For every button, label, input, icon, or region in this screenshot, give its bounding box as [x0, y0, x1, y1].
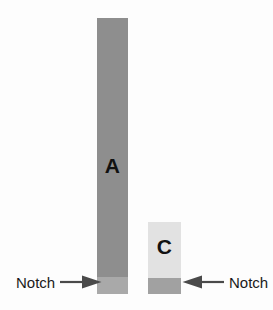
- callout-right-label: Notch: [229, 275, 268, 290]
- specimen-label-c: C: [148, 236, 181, 257]
- callout-right: Notch: [182, 271, 268, 293]
- specimen-diagram: A C Notch Notch: [0, 0, 273, 310]
- arrow-left-icon: [182, 275, 224, 289]
- specimen-bar-c: C: [148, 222, 181, 294]
- notch-region-c: [148, 278, 181, 294]
- specimen-bar-a: A: [97, 18, 128, 294]
- specimen-label-a: A: [97, 155, 128, 176]
- arrow-right-icon: [60, 275, 102, 289]
- callout-left-label: Notch: [16, 275, 55, 290]
- callout-left: Notch: [16, 271, 102, 293]
